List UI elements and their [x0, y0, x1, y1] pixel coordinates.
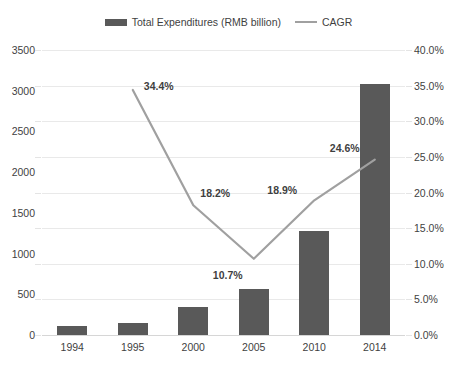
- legend-item-total-expenditures: Total Expenditures (RMB billion): [105, 16, 281, 28]
- gridline: [42, 264, 405, 265]
- tick-mark-right: [406, 299, 412, 300]
- tick-mark-left: [35, 228, 41, 229]
- tick-mark-left: [35, 86, 41, 87]
- cagr-label-2005: 10.7%: [213, 269, 243, 281]
- y-axis-left-tick-label: 3000: [1, 85, 35, 97]
- x-axis-tick-label: 2014: [363, 341, 386, 353]
- bar-2000: [178, 307, 208, 335]
- y-axis-right-tick-label: 35.0%: [414, 80, 456, 92]
- chart-legend: Total Expenditures (RMB billion) CAGR: [0, 16, 457, 28]
- tick-mark-left: [35, 299, 41, 300]
- gridline: [42, 121, 405, 122]
- tick-mark-right: [406, 228, 412, 229]
- gridline: [42, 50, 405, 51]
- cagr-polyline: [133, 90, 375, 259]
- line-swatch-icon: [295, 21, 317, 23]
- tick-mark-right: [406, 86, 412, 87]
- legend-label-total-expenditures: Total Expenditures (RMB billion): [132, 16, 281, 28]
- y-axis-right-tick-label: 15.0%: [414, 222, 456, 234]
- plot-area: 34.4%18.2%10.7%18.9%24.6%: [42, 50, 405, 335]
- tick-mark-right: [406, 335, 412, 336]
- cagr-label-2000: 18.2%: [200, 187, 230, 199]
- bar-swatch-icon: [105, 19, 127, 26]
- tick-mark-left: [35, 193, 41, 194]
- x-axis-tick-label: 1995: [121, 341, 144, 353]
- y-axis-left-tick-label: 3500: [1, 44, 35, 56]
- gridline: [42, 157, 405, 158]
- gridline: [42, 228, 405, 229]
- legend-label-cagr: CAGR: [322, 16, 352, 28]
- y-axis-left-tick-label: 1000: [1, 248, 35, 260]
- cagr-label-2010: 18.9%: [267, 184, 297, 196]
- tick-mark-right: [406, 264, 412, 265]
- tick-mark-left: [35, 50, 41, 51]
- x-axis-tick-label: 2000: [182, 341, 205, 353]
- cropped-footnote: [300, 361, 457, 368]
- tick-mark-right: [406, 157, 412, 158]
- y-axis-left-tick-label: 2000: [1, 166, 35, 178]
- x-axis-tick-label: 2010: [303, 341, 326, 353]
- gridline: [42, 335, 405, 336]
- y-axis-right-tick-label: 25.0%: [414, 151, 456, 163]
- cagr-label-1995: 34.4%: [144, 80, 174, 92]
- y-axis-left-tick-label: 0: [1, 329, 35, 341]
- y-axis-right-tick-label: 30.0%: [414, 115, 456, 127]
- y-axis-right-tick-label: 5.0%: [414, 293, 456, 305]
- tick-mark-left: [35, 335, 41, 336]
- tick-mark-right: [406, 121, 412, 122]
- gridline: [42, 299, 405, 300]
- tick-mark-left: [35, 264, 41, 265]
- y-axis-left-tick-label: 500: [1, 288, 35, 300]
- y-axis-right-tick-label: 40.0%: [414, 44, 456, 56]
- y-axis-right-tick-label: 0.0%: [414, 329, 456, 341]
- tick-mark-right: [406, 193, 412, 194]
- tick-mark-left: [35, 121, 41, 122]
- bar-1994: [57, 326, 87, 335]
- bar-2010: [299, 231, 329, 335]
- legend-item-cagr: CAGR: [295, 16, 352, 28]
- x-axis-tick-label: 2005: [242, 341, 265, 353]
- y-axis-right-tick-label: 20.0%: [414, 187, 456, 199]
- chart-container: Total Expenditures (RMB billion) CAGR 35…: [0, 0, 457, 368]
- bar-2014: [360, 84, 390, 335]
- bar-1995: [118, 323, 148, 335]
- y-axis-left-tick-label: 2500: [1, 125, 35, 137]
- x-axis-tick-label: 1994: [61, 341, 84, 353]
- tick-mark-right: [406, 50, 412, 51]
- y-axis-left-tick-label: 1500: [1, 207, 35, 219]
- y-axis-right-tick-label: 10.0%: [414, 258, 456, 270]
- cagr-label-2014: 24.6%: [330, 142, 360, 154]
- gridline: [42, 86, 405, 87]
- tick-mark-left: [35, 157, 41, 158]
- bar-2005: [239, 289, 269, 335]
